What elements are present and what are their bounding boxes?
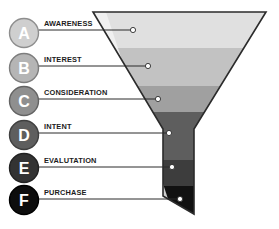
stage-label-f: PURCHASE: [44, 189, 87, 196]
stage-badge-letter-c: C: [18, 93, 30, 110]
stage-badge-letter-b: B: [18, 60, 30, 77]
stage-badge-f[interactable]: F: [10, 186, 39, 215]
connector-dot-a: [130, 27, 135, 32]
stage-badge-letter-a: A: [18, 25, 30, 42]
stage-label-b: INTEREST: [44, 56, 82, 63]
stage-connectors: ABCDEF: [0, 0, 279, 229]
stage-label-e: EVALUTATION: [44, 157, 97, 164]
stage-badge-letter-f: F: [19, 192, 29, 209]
stage-label-c: CONSIDERATION: [44, 89, 107, 96]
stage-badge-letter-d: D: [18, 127, 30, 144]
stage-badge-letter-e: E: [19, 160, 30, 177]
connector-dot-c: [155, 96, 160, 101]
funnel-diagram: ABCDEF AWARENESSINTERESTCONSIDERATIONINT…: [0, 0, 279, 229]
stage-label-a: AWARENESS: [44, 20, 93, 27]
stage-badge-e[interactable]: E: [10, 154, 39, 183]
stage-badge-d[interactable]: D: [10, 121, 39, 150]
stage-badge-c[interactable]: C: [10, 87, 39, 116]
stage-badge-b[interactable]: B: [10, 54, 39, 83]
stage-label-d: INTENT: [44, 123, 72, 130]
connector-dot-e: [169, 164, 174, 169]
stage-badge-a[interactable]: A: [10, 19, 39, 48]
connector-dot-f: [177, 196, 182, 201]
connector-dot-b: [145, 63, 150, 68]
connector-dot-d: [166, 130, 171, 135]
